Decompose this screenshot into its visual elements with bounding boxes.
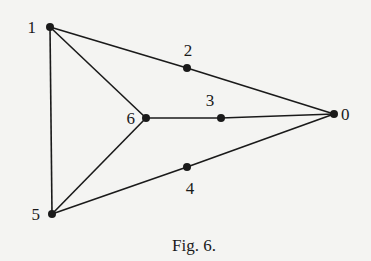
- node-6: [142, 114, 150, 122]
- node-4: [183, 163, 191, 171]
- node-3: [217, 114, 225, 122]
- node-label-6: 6: [127, 109, 136, 128]
- graph-nodes: 0123456: [28, 18, 350, 224]
- figure-caption: Fig. 6.: [172, 236, 216, 255]
- node-label-5: 5: [32, 205, 41, 224]
- node-5: [48, 210, 56, 218]
- node-0: [330, 110, 338, 118]
- node-label-4: 4: [186, 179, 195, 198]
- edge-1-5: [50, 27, 52, 214]
- node-label-2: 2: [184, 41, 193, 60]
- node-label-3: 3: [206, 91, 215, 110]
- node-2: [183, 64, 191, 72]
- node-label-1: 1: [28, 18, 37, 37]
- edge-3-0: [221, 114, 334, 118]
- edge-4-0: [187, 114, 334, 167]
- edge-5-4: [52, 167, 187, 214]
- node-1: [46, 23, 54, 31]
- edge-6-5: [52, 118, 146, 214]
- node-label-0: 0: [341, 105, 350, 124]
- graph-figure: 0123456 Fig. 6.: [0, 0, 371, 261]
